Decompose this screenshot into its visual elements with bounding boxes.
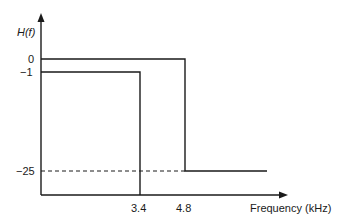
x-tick-4-8: 4.8 — [176, 203, 191, 214]
x-axis-label: Frequency (kHz) — [250, 203, 331, 214]
y-axis-label: H(f) — [17, 27, 35, 38]
lower-boundary-line — [41, 72, 140, 195]
y-tick-minus1: −1 — [20, 67, 33, 78]
y-tick-minus25: −25 — [16, 166, 35, 177]
x-axis-arrow-icon — [279, 192, 288, 199]
y-tick-0: 0 — [28, 54, 34, 65]
upper-boundary-line — [41, 59, 267, 171]
filter-mask-chart — [0, 0, 342, 223]
y-axis-arrow-icon — [38, 13, 45, 22]
x-tick-3-4: 3.4 — [131, 203, 146, 214]
